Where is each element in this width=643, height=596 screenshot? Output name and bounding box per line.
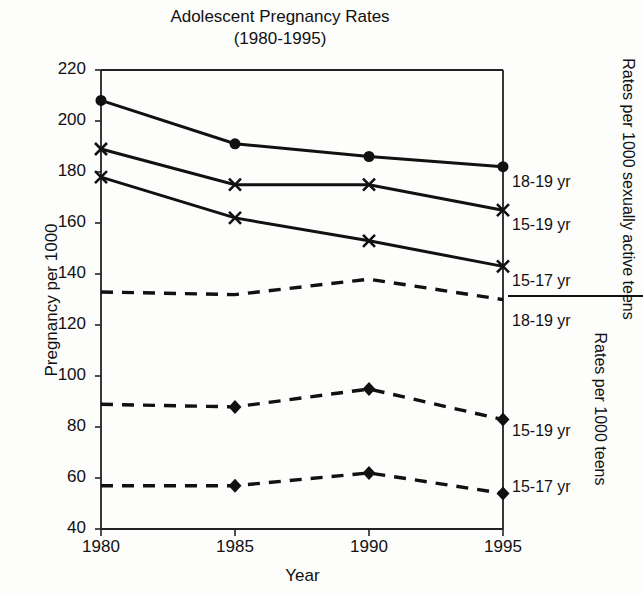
plot-canvas [0,0,643,596]
series-line [101,389,503,420]
x-ticks [101,529,503,536]
series-solid-15-17 [95,171,509,272]
data-point [96,95,107,106]
series-line [101,100,503,166]
series-dashed-15-17 [101,466,510,501]
series-line [101,473,503,494]
data-point [363,382,376,396]
data-point [229,400,242,414]
data-point [229,479,242,493]
series-line [101,279,503,299]
data-point [497,413,510,427]
series-dashed-15-19 [101,382,510,427]
data-point [364,151,375,162]
data-point [497,486,510,500]
data-point [498,161,509,172]
axis-frame [101,70,503,529]
data-point [363,466,376,480]
data-point [230,138,241,149]
series-line [101,177,503,266]
series-solid-18-19 [96,95,509,172]
data-point-diamonds [229,382,510,427]
series-dashed-18-19 [101,279,503,299]
series-solid-15-19 [95,143,509,216]
chart-figure: Adolescent Pregnancy Rates (1980-1995) P… [0,0,643,596]
series-line [101,149,503,210]
